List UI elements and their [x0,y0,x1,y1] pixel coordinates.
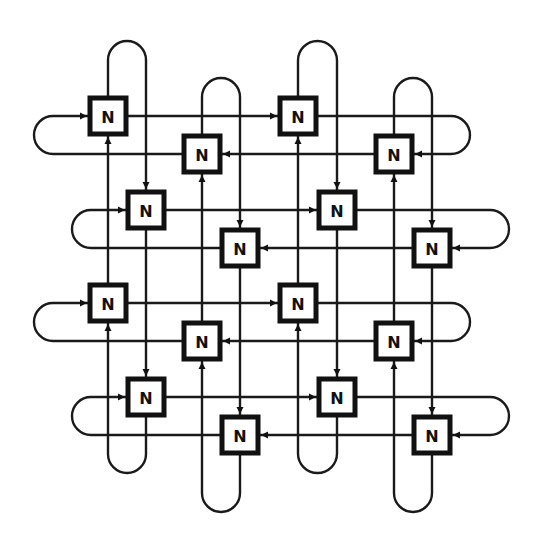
arrow-down-icon [334,369,341,376]
node-5: N [128,192,164,228]
arrow-left-icon [261,245,268,252]
arrow-left-icon [223,338,230,345]
arrow-left-icon [415,151,422,158]
arrow-down-icon [334,182,341,189]
arrow-down-icon [237,220,244,227]
node-label: N [233,427,246,446]
node-label: N [195,333,208,352]
node-label: N [101,295,114,314]
node-label: N [425,427,438,446]
node-13: N [128,379,164,415]
arrow-right-icon [270,300,277,307]
arrow-down-icon [429,407,436,414]
arrow-up-icon [105,324,112,331]
arrow-up-icon [391,362,398,369]
arrow-up-icon [199,362,206,369]
node-15: N [222,417,258,453]
node-6: N [319,192,355,228]
arrow-up-icon [199,175,206,182]
node-14: N [319,379,355,415]
arrow-right-icon [80,300,87,307]
node-label: N [233,240,246,259]
arrow-right-icon [80,113,87,120]
arrow-right-icon [309,207,316,214]
node-9: N [90,285,126,321]
node-1: N [90,98,126,134]
arrow-left-icon [261,432,268,439]
arrow-down-icon [429,220,436,227]
mesh-network-diagram: NNNNNNNNNNNNNNNN [0,0,533,540]
arrow-up-icon [295,137,302,144]
arrow-right-icon [118,394,125,401]
arrow-left-icon [223,151,230,158]
arrow-up-icon [391,175,398,182]
node-label: N [425,240,438,259]
node-12: N [376,323,412,359]
arrow-left-icon [453,245,460,252]
node-16: N [414,417,450,453]
node-label: N [291,295,304,314]
node-7: N [222,230,258,266]
node-4: N [376,136,412,172]
processing-nodes: NNNNNNNNNNNNNNNN [90,98,450,453]
node-label: N [387,333,400,352]
arrow-up-icon [105,137,112,144]
node-8: N [414,230,450,266]
arrow-down-icon [237,407,244,414]
node-2: N [280,98,316,134]
node-label: N [101,108,114,127]
node-label: N [195,146,208,165]
node-label: N [330,202,343,221]
node-label: N [387,146,400,165]
node-label: N [330,389,343,408]
arrow-down-icon [143,369,150,376]
arrow-right-icon [309,394,316,401]
node-11: N [184,323,220,359]
node-3: N [184,136,220,172]
arrow-right-icon [270,113,277,120]
node-10: N [280,285,316,321]
node-label: N [139,389,152,408]
node-label: N [291,108,304,127]
arrow-left-icon [415,338,422,345]
arrow-up-icon [295,324,302,331]
arrow-down-icon [143,182,150,189]
arrow-right-icon [118,207,125,214]
node-label: N [139,202,152,221]
arrow-left-icon [453,432,460,439]
